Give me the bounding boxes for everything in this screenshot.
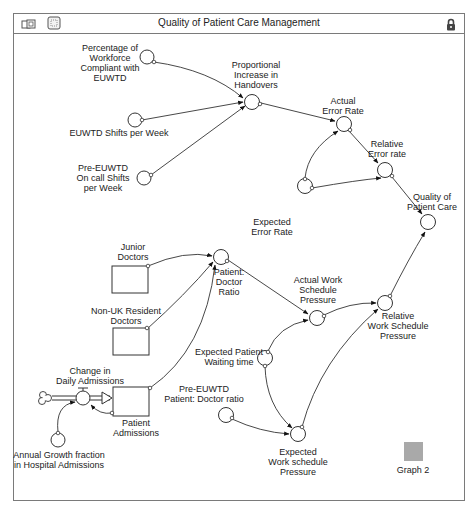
flow-change-daily-admissions[interactable] (39, 388, 113, 405)
converter-pre-euwtd-patient-doctor[interactable] (219, 408, 234, 423)
connector[interactable] (151, 106, 245, 175)
label-patient-admissions: PatientAdmissions (113, 418, 160, 438)
graph-pad-icon[interactable] (404, 442, 423, 461)
label-junior-doctors: JuniorDoctors (117, 242, 149, 262)
stock-non-uk-doctors[interactable] (113, 328, 149, 355)
connector[interactable] (268, 320, 308, 351)
label-pre-euwtd-patient-doctor: Pre-EUWTDPatient: Doctor ratio (164, 384, 244, 404)
connector[interactable] (265, 366, 292, 428)
connector[interactable] (305, 131, 338, 178)
label-patient-doctor-ratio: Patient:DoctorRatio (214, 267, 245, 297)
stock-junior-doctors[interactable] (112, 266, 148, 293)
label-quality-patient-care: Quality ofPatient Care (407, 192, 457, 212)
stock-flow-diagram: Percentage ofWorkforceCompliant withEUWT… (0, 0, 476, 510)
label-actual-work-schedule: Actual WorkSchedulePressure (294, 275, 343, 305)
label-euwtd-shifts: EUWTD Shifts per Week (70, 128, 169, 138)
connector[interactable] (390, 232, 425, 296)
connector[interactable] (147, 262, 213, 329)
converter-quality-patient-care[interactable] (421, 215, 436, 230)
flow-arrowhead-icon (102, 392, 112, 404)
label-relative-error-rate: RelativeError rate (368, 139, 406, 159)
converter-actual-work-schedule[interactable] (310, 311, 325, 326)
label-graph-2: Graph 2 (397, 465, 430, 475)
label-expected-work-schedule: ExpectedWork schedulePressure (268, 447, 327, 477)
cloud-source-icon (39, 392, 52, 405)
valve-icon (76, 391, 90, 405)
label-expected-patient-waiting: Expected PatientWaiting time (195, 347, 264, 367)
connector[interactable] (142, 102, 243, 120)
stock-patient-admissions[interactable] (113, 387, 149, 416)
label-proportional-increase: ProportionalIncrease inHandovers (232, 60, 281, 90)
connector[interactable] (312, 178, 381, 188)
label-relative-work-schedule: RelativeWork SchedulePressure (368, 311, 429, 341)
label-actual-error-rate: ActualError Rate (322, 96, 364, 116)
connector[interactable] (148, 254, 212, 266)
label-percentage-compliant: Percentage ofWorkforceCompliant withEUWT… (80, 43, 139, 83)
connector[interactable] (154, 62, 243, 98)
connector[interactable] (150, 265, 215, 388)
label-expected-error-rate: ExpectedError Rate (251, 217, 293, 237)
converter-pre-euwtd-oncall[interactable] (137, 171, 151, 185)
connector[interactable] (91, 405, 112, 413)
label-non-uk-doctors: Non-UK ResidentDoctors (91, 306, 162, 326)
connector[interactable] (232, 419, 289, 434)
label-change-daily-admissions: Change inDaily Admissions (56, 366, 125, 386)
connector[interactable] (58, 402, 75, 432)
label-pre-euwtd-oncall: Pre-EUWTDOn call Shiftsper Week (76, 163, 130, 193)
converter-proportional-increase[interactable] (245, 95, 260, 110)
label-annual-growth: Annual Growth fractionin Hospital Admiss… (13, 450, 105, 470)
